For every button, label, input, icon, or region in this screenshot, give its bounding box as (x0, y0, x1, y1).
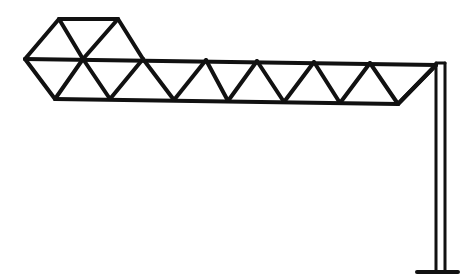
web-diagonal (206, 60, 228, 101)
head-diagonal (59, 19, 83, 59)
web-diagonal (55, 59, 83, 99)
truss-drawing (0, 0, 468, 280)
web-diagonal (174, 60, 206, 100)
web-diagonal (340, 63, 370, 103)
head-diagonal (118, 19, 143, 59)
web-diagonal (284, 62, 314, 102)
truss-arm (25, 19, 436, 104)
web-diagonal (314, 62, 340, 103)
head-diagonal (25, 59, 55, 99)
web-diagonal (83, 59, 110, 99)
web-diagonal (143, 59, 174, 100)
head-diagonal (25, 19, 59, 59)
truss-diagram (0, 0, 468, 280)
web-diagonal (228, 61, 257, 101)
web-diagonal (370, 63, 398, 104)
support-post (417, 63, 458, 272)
web-diagonal (398, 65, 436, 104)
web-diagonal (257, 61, 284, 102)
web-diagonal (110, 59, 143, 99)
head-diagonal (83, 19, 118, 59)
